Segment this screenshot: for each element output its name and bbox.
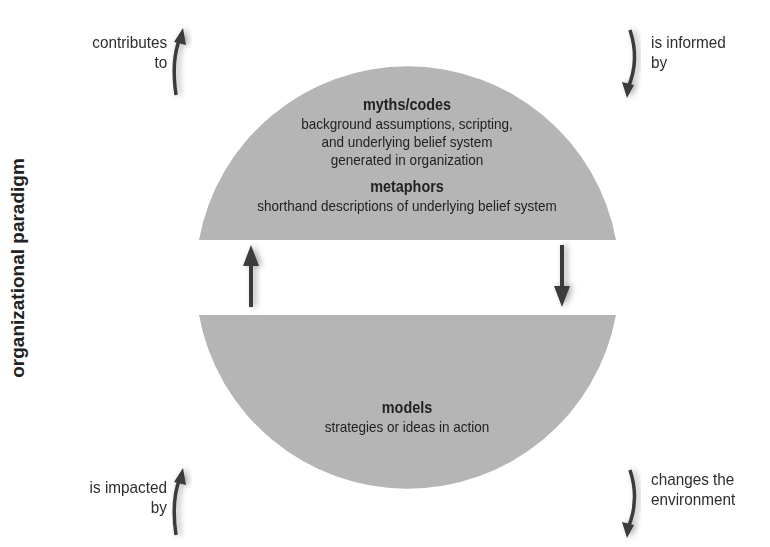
curved-up-arrow-top-left-icon (174, 28, 186, 95)
label-changes-the-environment: changes the environment (651, 470, 735, 510)
label-contributes-to: contributes to (92, 33, 167, 73)
down-arrow-icon (554, 245, 570, 307)
models-heading: models (227, 398, 587, 418)
label-is-informed-by: is informed by (651, 33, 726, 73)
curved-down-arrow-bottom-right-icon (622, 470, 635, 538)
curved-up-arrow-bottom-left-icon (174, 468, 186, 535)
myths-codes-heading: myths/codes (227, 95, 587, 115)
curved-down-arrow-top-right-icon (622, 30, 635, 98)
top-segment-text: myths/codes background assumptions, scri… (227, 95, 587, 215)
diagram-shapes (0, 0, 770, 547)
bottom-segment-text: models strategies or ideas in action (227, 398, 587, 436)
vertical-title: organizational paradigm (6, 130, 30, 405)
label-is-impacted-by: is impacted by (90, 478, 167, 518)
metaphors-heading: metaphors (227, 177, 587, 197)
up-arrow-icon (243, 245, 259, 307)
